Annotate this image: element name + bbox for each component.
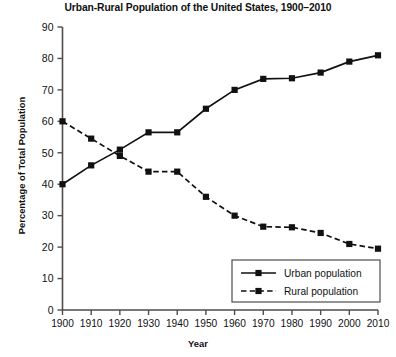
- data-point-marker: [145, 169, 151, 175]
- data-point-marker: [318, 230, 324, 236]
- legend-swatch-marker: [255, 288, 261, 294]
- y-tick-label: 80: [42, 52, 54, 64]
- y-tick-label: 20: [42, 241, 54, 253]
- data-point-marker: [88, 136, 94, 142]
- y-tick-label: 70: [42, 84, 54, 96]
- legend-label-rural: Rural population: [284, 286, 358, 297]
- data-point-marker: [59, 118, 65, 124]
- data-point-marker: [375, 52, 381, 58]
- x-tick-label: 1960: [223, 318, 246, 329]
- data-point-marker: [59, 181, 65, 187]
- data-point-marker: [231, 87, 237, 93]
- legend-label-urban: Urban population: [284, 268, 362, 279]
- data-point-marker: [346, 58, 352, 64]
- x-tick-label: 1920: [109, 318, 132, 329]
- series-layer: [59, 52, 381, 252]
- data-point-marker: [174, 169, 180, 175]
- data-point-marker: [260, 76, 266, 82]
- x-tick-label: 1910: [80, 318, 103, 329]
- chart-container: Urban-Rural Population of the United Sta…: [0, 0, 396, 357]
- data-point-marker: [117, 153, 123, 159]
- chart-legend: Urban populationRural population: [232, 260, 380, 302]
- y-tick-label: 0: [48, 304, 54, 316]
- plot-area: 0102030405060708090 19001910192019301940…: [0, 0, 396, 357]
- data-point-marker: [117, 147, 123, 153]
- y-tick-label: 10: [42, 272, 54, 284]
- data-point-marker: [318, 69, 324, 75]
- x-tick-label: 2000: [338, 318, 361, 329]
- data-point-marker: [203, 106, 209, 112]
- x-tick-label: 1980: [281, 318, 304, 329]
- data-point-marker: [231, 213, 237, 219]
- x-tick-label: 1950: [195, 318, 218, 329]
- data-point-marker: [145, 129, 151, 135]
- y-tick-label: 50: [42, 147, 54, 159]
- data-point-marker: [174, 129, 180, 135]
- data-point-marker: [346, 241, 352, 247]
- series-line-rural: [63, 121, 379, 248]
- x-tick-label: 1970: [252, 318, 275, 329]
- x-axis-tick-group: 1900191019201930194019501960197019801990…: [51, 310, 389, 329]
- data-point-marker: [260, 224, 266, 230]
- y-tick-label: 40: [42, 178, 54, 190]
- x-tick-label: 1990: [309, 318, 332, 329]
- y-tick-label: 60: [42, 115, 54, 127]
- x-tick-label: 2010: [367, 318, 390, 329]
- series-line-urban: [63, 55, 379, 184]
- x-tick-label: 1930: [137, 318, 160, 329]
- legend-swatch-marker: [255, 270, 261, 276]
- x-tick-label: 1940: [166, 318, 189, 329]
- data-point-marker: [203, 194, 209, 200]
- data-point-marker: [375, 246, 381, 252]
- y-tick-label: 90: [42, 21, 54, 33]
- y-tick-label: 30: [42, 209, 54, 221]
- data-point-marker: [88, 162, 94, 168]
- y-axis-tick-group: 0102030405060708090: [42, 21, 63, 316]
- x-tick-label: 1900: [51, 318, 74, 329]
- data-point-marker: [289, 224, 295, 230]
- data-point-marker: [289, 75, 295, 81]
